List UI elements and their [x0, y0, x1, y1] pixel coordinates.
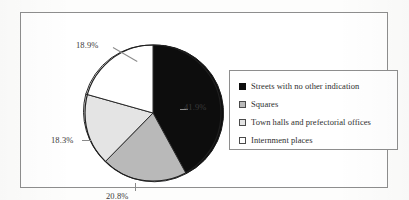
pie-svg [79, 39, 227, 187]
slice-label-internment: 18.9% [76, 40, 98, 50]
legend-swatch-icon [239, 101, 246, 108]
legend-swatch-icon [239, 119, 246, 126]
figure-frame: 41.9% 20.8% 18.3% 18.9% Streets with no … [20, 12, 388, 188]
leader-line-18-3 [82, 140, 91, 141]
leader-line-20 [135, 183, 136, 191]
legend-item-streets[interactable]: Streets with no other indication [230, 77, 397, 95]
figure-root: 41.9% 20.8% 18.3% 18.9% Streets with no … [0, 0, 409, 200]
legend-label: Streets with no other indication [251, 81, 359, 91]
legend-swatch-icon [239, 137, 246, 144]
legend-item-internment[interactable]: Internment places [230, 131, 397, 149]
slice-label-squares: 20.8% [106, 191, 128, 200]
legend-label: Squares [251, 99, 278, 109]
slice-label-streets: 41.9% [184, 102, 206, 112]
legend-item-squares[interactable]: Squares [230, 95, 397, 113]
legend-label: Town halls and prefectorial offices [251, 117, 371, 127]
slice-label-townhalls: 18.3% [51, 135, 73, 145]
pie-chart: 41.9% 20.8% 18.3% 18.9% [79, 39, 227, 187]
legend: Streets with no other indication Squares… [229, 70, 398, 150]
legend-label: Internment places [251, 135, 313, 145]
legend-swatch-icon [239, 83, 246, 90]
legend-item-townhalls[interactable]: Town halls and prefectorial offices [230, 113, 397, 131]
